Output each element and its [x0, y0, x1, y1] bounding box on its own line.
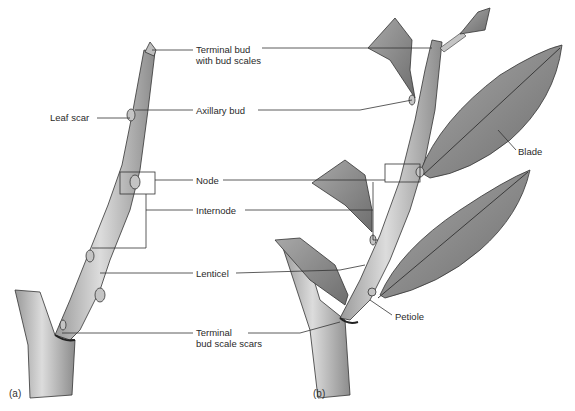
label-terminal-bud-line1: Terminal bud	[196, 44, 261, 55]
label-axillary-bud: Axillary bud	[196, 105, 245, 116]
label-terminal-bud-line2: with bud scales	[196, 55, 261, 66]
twig-a	[15, 42, 156, 398]
label-leaf-scar: Leaf scar	[50, 112, 89, 123]
twig-b	[275, 8, 562, 398]
leaf-middle-left	[312, 160, 372, 232]
label-lenticel: Lenticel	[196, 268, 229, 279]
label-terminal-bud-scale-scars-line1: Terminal	[196, 327, 262, 338]
panel-label-a: (a)	[9, 388, 21, 399]
leaf-top-left	[368, 18, 415, 98]
label-terminal-bud-scale-scars-line2: bud scale scars	[196, 338, 262, 349]
label-petiole: Petiole	[395, 311, 424, 322]
twig-diagram	[0, 0, 575, 411]
panel-label-b: (b)	[313, 388, 325, 399]
label-terminal-bud-scale-scars: Terminal bud scale scars	[196, 327, 262, 349]
label-blade: Blade	[518, 146, 542, 157]
label-internode: Internode	[196, 205, 236, 216]
label-terminal-bud: Terminal bud with bud scales	[196, 44, 261, 66]
leaf-top-right	[460, 8, 490, 34]
label-node: Node	[196, 175, 219, 186]
